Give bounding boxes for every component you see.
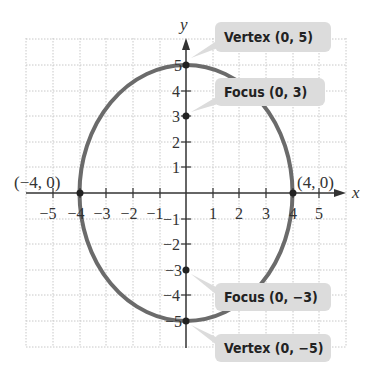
y-tick-label: 1 [172,159,180,176]
callout-focus-top: Focus (0, 3) [191,78,325,112]
covertex-right-point [290,190,297,197]
svg-text:Vertex (0, −5): Vertex (0, −5) [224,340,324,356]
y-tick-label: 5 [174,57,182,74]
focus-top-point [183,113,190,120]
x-tick-label: 4 [289,205,297,222]
y-axis-arrow-icon [182,38,190,50]
focus-bottom-point [183,267,190,274]
x-tick-label: −3 [93,205,110,222]
svg-text:Focus (0, 3): Focus (0, 3) [224,84,307,100]
x-tick-label: 5 [315,205,323,222]
callout-vertex-bottom: Vertex (0, −5) [191,325,331,362]
ellipse-graph: x y −5 −4 −3 −2 −1 1 2 3 4 5 5 4 [0,0,372,376]
y-tick-label: 4 [172,83,180,100]
callout-vertex-top: Vertex (0, 5) [191,22,331,58]
svg-text:Focus (0, −3): Focus (0, −3) [224,289,318,305]
x-tick-label: −2 [120,205,137,222]
y-tick-label: −3 [165,262,182,279]
x-tick-label: −4 [67,205,84,222]
y-tick-label: 2 [172,134,180,151]
svg-text:Vertex (0, 5): Vertex (0, 5) [224,29,313,45]
vertex-bottom-point [183,318,190,325]
covertex-left-label: (−4, 0) [14,173,60,192]
x-tick-label: −5 [39,205,56,222]
x-axis-arrow-icon [334,189,346,197]
x-axis-label: x [351,183,360,202]
x-tick-label: 3 [262,205,270,222]
y-tick-label: −5 [165,313,182,330]
covertex-right-label: (4, 0) [297,173,334,192]
x-tick-label: 2 [235,205,243,222]
callout-focus-bottom: Focus (0, −3) [191,274,331,311]
covertex-left-point [77,190,84,197]
y-tick-label: −4 [163,287,180,304]
y-tick-label: 3 [172,108,180,125]
y-tick-label: −1 [163,211,180,228]
x-tick-label: −1 [146,205,163,222]
x-tick-label: 1 [209,205,217,222]
y-tick-label: −2 [163,236,180,253]
vertex-top-point [183,62,190,69]
y-axis-label: y [178,15,188,34]
